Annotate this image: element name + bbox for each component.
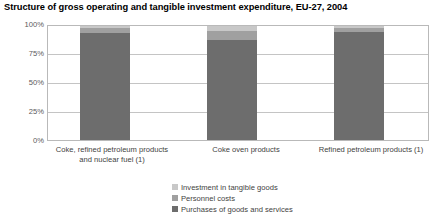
chart-figure: Structure of gross operating and tangibl…: [0, 0, 436, 219]
legend-item-investment: Investment in tangible goods: [172, 182, 412, 192]
legend-label: Personnel costs: [181, 194, 235, 203]
legend-label: Purchases of goods and services: [181, 205, 293, 214]
bar-segment-personnel: [207, 31, 257, 40]
legend: Investment in tangible goods Personnel c…: [172, 182, 412, 215]
legend-label: Investment in tangible goods: [181, 183, 278, 192]
bar-refined-petroleum-products: [334, 26, 384, 140]
bar-coke-oven-products: [207, 26, 257, 140]
x-label-line2: and nuclear fuel (1): [37, 155, 187, 165]
x-axis-labels: Coke, refined petroleum products and nuc…: [47, 145, 429, 171]
page-title: Structure of gross operating and tangibl…: [4, 2, 434, 12]
bar-segment-purchases: [80, 33, 130, 140]
y-tick-100: 100%: [2, 21, 44, 29]
bar-segment-purchases: [334, 32, 384, 140]
bar-coke-refined-petroleum-nuclear: [80, 26, 130, 140]
plot-area: [47, 25, 429, 141]
legend-item-personnel: Personnel costs: [172, 193, 412, 203]
legend-swatch-icon: [172, 195, 178, 201]
x-label-category-1: Coke, refined petroleum products and nuc…: [37, 145, 187, 164]
y-tick-25: 25%: [2, 108, 44, 116]
x-label-line1: Coke, refined petroleum products: [37, 145, 187, 155]
y-tick-0: 0%: [2, 137, 44, 145]
x-label-line1: Refined petroleum products (1): [296, 145, 436, 155]
legend-swatch-icon: [172, 184, 178, 190]
x-label-category-3: Refined petroleum products (1): [296, 145, 436, 155]
legend-swatch-icon: [172, 206, 178, 212]
y-tick-75: 75%: [2, 50, 44, 58]
bar-segment-purchases: [207, 40, 257, 140]
y-tick-50: 50%: [2, 79, 44, 87]
legend-item-purchases: Purchases of goods and services: [172, 204, 412, 214]
y-axis: 100% 75% 50% 25% 0%: [0, 25, 44, 141]
